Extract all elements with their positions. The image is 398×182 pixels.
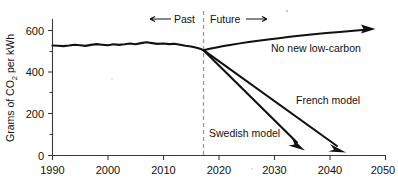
historical-series-line (53, 42, 204, 50)
y-axis-title-prefix: Grams of CO (4, 80, 16, 142)
speck-3 (251, 168, 252, 169)
past-arrow-icon (150, 16, 171, 21)
x-tick-label-2030: 2030 (262, 164, 286, 176)
y-tick-labels: 600 400 200 0 (26, 25, 44, 162)
future-arrow-icon (246, 16, 267, 21)
y-tick-label-600: 600 (26, 25, 44, 37)
y-tick-label-0: 0 (38, 150, 44, 162)
swedish-model-label: Swedish model (209, 127, 280, 139)
future-annotation: Future (210, 13, 267, 25)
scan-specks (111, 10, 288, 170)
past-annotation: Past (150, 13, 195, 25)
x-tick-label-2020: 2020 (207, 164, 231, 176)
svg-text:Grams of CO2 per kWh: Grams of CO2 per kWh (4, 34, 19, 142)
y-axis-title-suffix: per kWh (4, 34, 16, 76)
x-tick-marks (53, 156, 386, 161)
chart-canvas: 600 400 200 0 1990 2000 2010 2020 2030 2… (0, 0, 398, 182)
y-tick-label-200: 200 (26, 108, 44, 120)
future-label: Future (210, 13, 241, 25)
x-tick-labels: 1990 2000 2010 2020 2030 2040 2050 (40, 164, 395, 176)
y-axis-title: Grams of CO2 per kWh (4, 34, 19, 142)
y-tick-marks (48, 31, 53, 156)
x-tick-label-2010: 2010 (151, 164, 175, 176)
co2-intensity-projection-chart: 600 400 200 0 1990 2000 2010 2020 2030 2… (0, 0, 398, 182)
past-label: Past (174, 13, 195, 25)
x-tick-label-2000: 2000 (96, 164, 120, 176)
y-tick-label-400: 400 (26, 66, 44, 78)
x-tick-label-2040: 2040 (318, 164, 342, 176)
swedish-model-arrowhead (289, 138, 306, 151)
speck-2 (111, 78, 112, 79)
french-model-label: French model (296, 94, 360, 106)
speck-1 (286, 10, 288, 12)
no-new-low-carbon-label: No new low-carbon (271, 42, 361, 54)
x-tick-label-1990: 1990 (40, 164, 64, 176)
x-tick-label-2050: 2050 (371, 164, 395, 176)
